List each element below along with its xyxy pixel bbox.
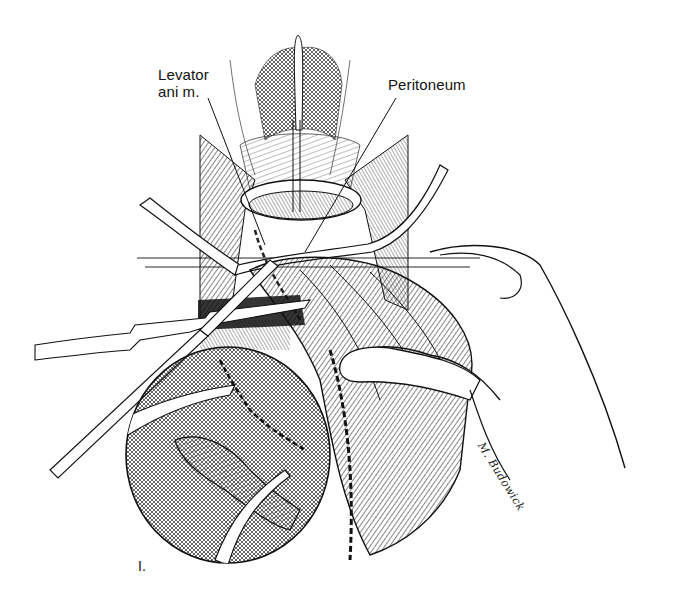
- label-peritoneum: Peritoneum: [388, 76, 466, 93]
- surgical-illustration: Levator ani m. Peritoneum I. M. Budowick: [0, 0, 684, 602]
- label-levator-line2: ani m.: [158, 83, 238, 100]
- illustration-art: [0, 0, 684, 602]
- figure-number: I.: [138, 558, 146, 575]
- label-levator-line1: Levator: [158, 66, 238, 83]
- label-levator-ani: Levator ani m.: [158, 66, 238, 100]
